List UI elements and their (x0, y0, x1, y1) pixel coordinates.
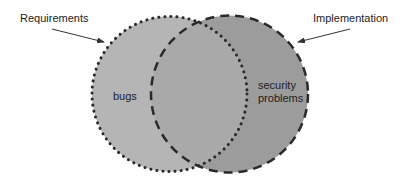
security-problems-label-line2: problems (258, 92, 304, 104)
requirements-arrow (52, 29, 104, 42)
security-problems-label-line1: security (258, 79, 296, 91)
venn-diagram: Requirements Implementation bugs securit… (0, 0, 403, 179)
requirements-label: Requirements (20, 12, 89, 24)
implementation-arrow (298, 29, 350, 42)
bugs-label: bugs (113, 90, 137, 102)
implementation-label: Implementation (313, 12, 388, 24)
